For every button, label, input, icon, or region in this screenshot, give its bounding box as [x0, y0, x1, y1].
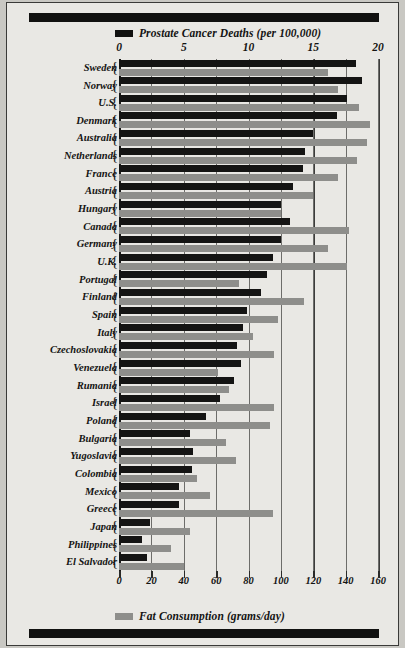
- category-label-czechoslovakia: Czechoslovakia: [21, 341, 117, 359]
- category-label-spain: Spain: [21, 306, 117, 324]
- legend-prostate-cancer: Prostate Cancer Deaths (per 100,000): [115, 27, 321, 39]
- category-label-u-s-: U.S.: [21, 94, 117, 112]
- bar-prostate-cancer-deaths: [119, 324, 243, 331]
- table-row: [119, 200, 378, 218]
- bar-prostate-cancer-deaths: [119, 519, 150, 526]
- chart-frame: Prostate Cancer Deaths (per 100,000) Fat…: [6, 2, 399, 646]
- brace-icon: {: [111, 290, 118, 305]
- bar-fat-consumption: [119, 545, 171, 552]
- bar-prostate-cancer-deaths: [119, 271, 267, 278]
- brace-icon: {: [111, 201, 118, 216]
- table-row: [119, 447, 378, 465]
- category-label-el-salvador: El Salvador: [21, 553, 117, 571]
- category-label-sweden: Sweden: [21, 59, 117, 77]
- bar-prostate-cancer-deaths: [119, 501, 179, 508]
- brace-icon: {: [111, 148, 118, 163]
- brace-icon: {: [111, 342, 118, 357]
- brace-icon: {: [111, 60, 118, 75]
- bar-prostate-cancer-deaths: [119, 77, 362, 84]
- category-label-philippines: Philippines: [21, 536, 117, 554]
- category-label-venezuela: Venezuela: [21, 359, 117, 377]
- bar-fat-consumption: [119, 280, 239, 287]
- table-row: [119, 306, 378, 324]
- bar-fat-consumption: [119, 227, 349, 234]
- brace-icon: {: [111, 78, 118, 93]
- brace-icon: {: [111, 501, 118, 516]
- bar-fat-consumption: [119, 192, 313, 199]
- brace-icon: {: [111, 254, 118, 269]
- bar-prostate-cancer-deaths: [119, 342, 237, 349]
- bar-prostate-cancer-deaths: [119, 395, 220, 402]
- legend-swatch-black-icon: [115, 30, 133, 37]
- table-row: [119, 430, 378, 448]
- category-label-portugal: Portugal: [21, 271, 117, 289]
- bar-fat-consumption: [119, 492, 210, 499]
- brace-icon: {: [111, 219, 118, 234]
- bar-fat-consumption: [119, 316, 278, 323]
- bar-fat-consumption: [119, 298, 304, 305]
- bar-prostate-cancer-deaths: [119, 413, 206, 420]
- bar-fat-consumption: [119, 263, 347, 270]
- tickmark-bottom-60: [216, 571, 218, 578]
- legend-label-fat-consumption: Fat Consumption (grams/day): [139, 610, 285, 622]
- table-row: [119, 165, 378, 183]
- brace-icon: {: [111, 237, 118, 252]
- legend-fat-consumption: Fat Consumption (grams/day): [115, 610, 285, 622]
- bar-fat-consumption: [119, 404, 274, 411]
- bar-rows: [119, 59, 378, 571]
- table-row: [119, 253, 378, 271]
- bar-prostate-cancer-deaths: [119, 236, 281, 243]
- bar-prostate-cancer-deaths: [119, 183, 293, 190]
- bar-fat-consumption: [119, 333, 253, 340]
- legend-label-prostate-cancer: Prostate Cancer Deaths (per 100,000): [139, 27, 321, 39]
- brace-icon: {: [111, 448, 118, 463]
- bottom-rule: [29, 629, 379, 638]
- category-label-poland: Poland: [21, 412, 117, 430]
- bar-prostate-cancer-deaths: [119, 60, 356, 67]
- table-row: [119, 483, 378, 501]
- bar-fat-consumption: [119, 369, 218, 376]
- table-row: [119, 130, 378, 148]
- brace-icon: {: [111, 307, 118, 322]
- tickmark-bottom-100: [281, 571, 283, 578]
- brace-icon: {: [111, 395, 118, 410]
- bar-prostate-cancer-deaths: [119, 148, 305, 155]
- category-label-norway: Norway: [21, 77, 117, 95]
- top-rule: [29, 13, 379, 22]
- table-row: [119, 147, 378, 165]
- category-label-hungary: Hungary: [21, 200, 117, 218]
- legend-swatch-gray-icon: [115, 613, 133, 620]
- table-row: [119, 536, 378, 554]
- category-label-colombia: Colombia: [21, 465, 117, 483]
- table-row: [119, 77, 378, 95]
- table-row: [119, 271, 378, 289]
- bar-prostate-cancer-deaths: [119, 112, 337, 119]
- bar-prostate-cancer-deaths: [119, 430, 190, 437]
- tickmark-bottom-80: [249, 571, 251, 578]
- brace-icon: {: [111, 184, 118, 199]
- tickmark-bottom-140: [346, 571, 348, 578]
- table-row: [119, 341, 378, 359]
- bar-fat-consumption: [119, 351, 274, 358]
- bar-prostate-cancer-deaths: [119, 483, 179, 490]
- table-row: [119, 59, 378, 77]
- brace-icon: {: [111, 360, 118, 375]
- table-row: [119, 500, 378, 518]
- bar-prostate-cancer-deaths: [119, 254, 273, 261]
- category-label-austria: Austria: [21, 183, 117, 201]
- category-label-mexico: Mexico: [21, 483, 117, 501]
- category-braces: {{{{{{{{{{{{{{{{{{{{{{{{{{{{{: [111, 59, 119, 571]
- brace-icon: {: [111, 413, 118, 428]
- bar-fat-consumption: [119, 563, 184, 570]
- category-label-canada: Canada: [21, 218, 117, 236]
- axis-top-tick-15: 15: [308, 41, 320, 53]
- axis-top-tick-0: 0: [116, 41, 122, 53]
- category-label-israel: Israel: [21, 394, 117, 412]
- bar-fat-consumption: [119, 121, 370, 128]
- bar-fat-consumption: [119, 86, 338, 93]
- axis-bottom-tickmarks: [119, 571, 378, 578]
- bar-prostate-cancer-deaths: [119, 448, 193, 455]
- bar-fat-consumption: [119, 210, 281, 217]
- category-label-u-k-: U.K.: [21, 253, 117, 271]
- bar-prostate-cancer-deaths: [119, 377, 234, 384]
